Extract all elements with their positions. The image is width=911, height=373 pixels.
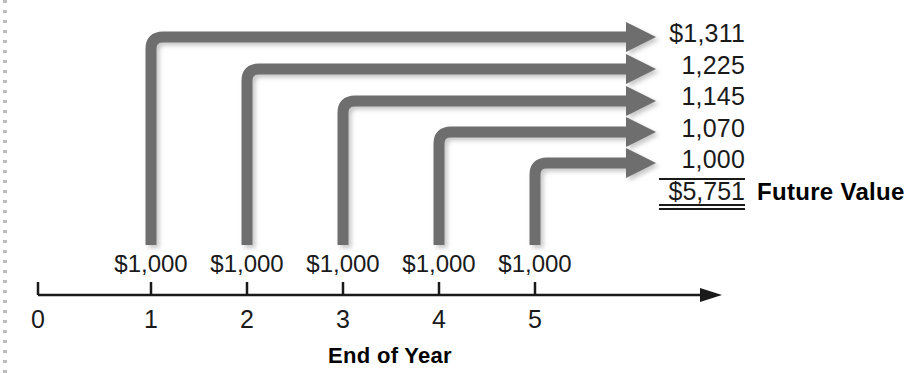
- compounding-arrow-year-2: [247, 54, 656, 245]
- tick-label-2: 2: [240, 305, 254, 334]
- future-value-row-year-3: 1,145: [655, 81, 745, 113]
- future-value-total: $5,751: [655, 176, 745, 206]
- future-value-row-year-5: 1,000: [655, 144, 745, 176]
- compounding-arrow-year-5: [535, 148, 656, 245]
- tick-label-5: 5: [528, 305, 542, 334]
- future-value-column: $1,311 1,225 1,145 1,070 1,000: [655, 18, 745, 176]
- axis-title: End of Year: [328, 343, 452, 369]
- future-value-row-year-1: $1,311: [655, 18, 745, 50]
- tick-label-3: 3: [336, 305, 350, 334]
- future-value-caption: Future Value: [757, 178, 905, 206]
- cash-flow-label-year-3: $1,000: [306, 250, 379, 278]
- cash-flow-label-year-1: $1,000: [114, 250, 187, 278]
- cash-flow-label-year-2: $1,000: [210, 250, 283, 278]
- future-value-row-year-4: 1,070: [655, 113, 745, 145]
- future-value-timeline-figure: $1,000 $1,000 $1,000 $1,000 $1,000 0 1 2…: [0, 0, 911, 373]
- sum-rule-bottom-lower: [659, 208, 745, 210]
- tick-label-1: 1: [144, 305, 158, 334]
- cash-flow-label-year-5: $1,000: [498, 250, 571, 278]
- sum-rule-bottom-upper: [659, 204, 745, 206]
- time-axis: [38, 282, 722, 302]
- future-value-row-year-2: 1,225: [655, 50, 745, 82]
- tick-label-4: 4: [432, 305, 446, 334]
- compounding-arrow-year-4: [439, 117, 656, 245]
- compounding-arrows: [151, 22, 656, 245]
- cash-flow-label-year-4: $1,000: [402, 250, 475, 278]
- tick-label-0: 0: [31, 305, 45, 334]
